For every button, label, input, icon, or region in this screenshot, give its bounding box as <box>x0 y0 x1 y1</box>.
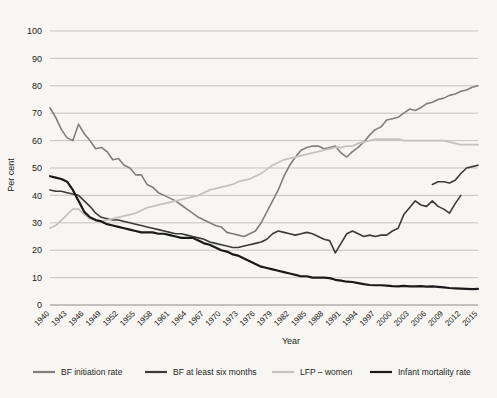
x-tick-label: 2003 <box>392 309 411 328</box>
series-line <box>50 86 478 237</box>
x-tick-label: 1985 <box>289 309 308 328</box>
y-tick-label: 60 <box>32 136 42 146</box>
legend-label: LFP – women <box>300 367 353 377</box>
x-tick-label: 1964 <box>169 309 188 328</box>
series-line <box>50 190 461 253</box>
chart-legend: BF initiation rateBF at least six months… <box>33 367 471 377</box>
x-tick-label: 2012 <box>443 309 462 328</box>
x-tick-label: 1967 <box>187 309 206 328</box>
y-tick-label: 0 <box>37 300 42 310</box>
series-line <box>50 139 478 228</box>
x-tick-label: 1946 <box>67 309 86 328</box>
series-lines <box>50 86 478 289</box>
x-tick-label: 1994 <box>341 309 360 328</box>
x-axis-tick-labels: 1940194319461949195219551958196119641967… <box>32 309 479 328</box>
y-tick-label: 20 <box>32 245 42 255</box>
x-tick-label: 1958 <box>135 309 154 328</box>
y-axis-title: Per cent <box>6 158 16 192</box>
y-axis-tick-labels: 0102030405060708090100 <box>27 26 42 310</box>
y-tick-label: 50 <box>32 163 42 173</box>
y-tick-label: 80 <box>32 81 42 91</box>
y-tick-label: 100 <box>27 26 42 36</box>
x-tick-label: 2015 <box>460 309 479 328</box>
x-tick-label: 1979 <box>255 309 274 328</box>
x-tick-label: 1997 <box>358 309 377 328</box>
gridlines <box>50 31 478 305</box>
x-tick-label: 1976 <box>238 309 257 328</box>
x-tick-label: 1991 <box>324 309 343 328</box>
x-tick-label: 1982 <box>272 309 291 328</box>
x-tick-label: 1952 <box>101 309 120 328</box>
x-tick-label: 1988 <box>306 309 325 328</box>
x-tick-label: 1949 <box>84 309 103 328</box>
y-tick-label: 90 <box>32 54 42 64</box>
legend-label: BF initiation rate <box>61 367 123 377</box>
y-tick-label: 70 <box>32 108 42 118</box>
x-tick-label: 2009 <box>426 309 445 328</box>
x-tick-label: 1973 <box>221 309 240 328</box>
y-tick-label: 30 <box>32 218 42 228</box>
x-axis-title: Year <box>282 336 300 346</box>
x-tick-label: 1970 <box>204 309 223 328</box>
chart-figure: 0102030405060708090100 19401943194619491… <box>0 0 497 398</box>
y-tick-label: 40 <box>32 191 42 201</box>
legend-label: Infant mortality rate <box>398 367 471 377</box>
x-tick-label: 1955 <box>118 309 137 328</box>
line-chart: 0102030405060708090100 19401943194619491… <box>0 0 497 398</box>
x-tick-label: 1943 <box>50 309 69 328</box>
x-tick-label: 2006 <box>409 309 428 328</box>
x-tick-label: 1940 <box>32 309 51 328</box>
legend-label: BF at least six months <box>173 367 257 377</box>
series-line <box>50 176 478 289</box>
y-tick-label: 10 <box>32 273 42 283</box>
x-tick-label: 2000 <box>375 309 394 328</box>
x-tick-label: 1961 <box>152 309 171 328</box>
